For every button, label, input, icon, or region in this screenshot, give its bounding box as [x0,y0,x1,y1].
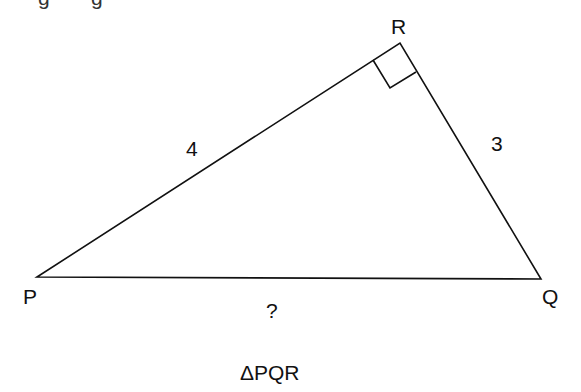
right-angle-marker [373,60,416,88]
vertex-label-q: Q [542,286,558,307]
diagram-title: ΔPQR [240,362,300,383]
triangle-pqr [37,43,541,279]
triangle-figure [0,0,581,392]
side-label-pr: 4 [186,138,198,159]
side-label-pq: ? [266,300,278,321]
side-label-rq: 3 [491,133,503,154]
vertex-label-r: R [391,16,406,37]
triangle-diagram: g g R P Q 4 3 ? ΔPQR [0,0,581,392]
vertex-label-p: P [23,286,37,307]
